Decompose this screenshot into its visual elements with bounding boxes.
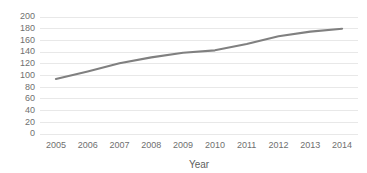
y-axis-tick-label: 60 — [25, 93, 35, 103]
x-axis-tick-label: 2007 — [109, 140, 129, 150]
y-axis-tick-label: 80 — [25, 82, 35, 92]
y-axis-tick-label: 200 — [20, 11, 35, 21]
chart-canvas: 020406080100120140160180200 200520062007… — [0, 0, 367, 173]
y-axis-tick-label: 20 — [25, 117, 35, 127]
x-axis-title: Year — [189, 159, 210, 170]
y-axis-tick-label: 140 — [20, 46, 35, 56]
y-axis-tick-label: 100 — [20, 70, 35, 80]
y-axis-tick-label: 40 — [25, 105, 35, 115]
x-axis-tick-label: 2009 — [173, 140, 193, 150]
line-chart-figure: 020406080100120140160180200 200520062007… — [0, 0, 367, 173]
x-axis-tick-label: 2012 — [268, 140, 288, 150]
x-axis-tick-label: 2008 — [141, 140, 161, 150]
x-axis-tick-label: 2010 — [205, 140, 225, 150]
y-axis-tick-label: 180 — [20, 23, 35, 33]
x-axis-tick-label: 2005 — [46, 140, 66, 150]
x-axis-tick-label: 2011 — [237, 140, 256, 150]
x-axis-tick-label: 2013 — [300, 140, 320, 150]
x-axis-tick-label: 2006 — [78, 140, 98, 150]
y-axis-tick-label: 0 — [30, 128, 35, 138]
x-axis-tick-label: 2014 — [332, 140, 352, 150]
y-axis-tick-label: 120 — [20, 58, 35, 68]
y-axis-tick-label: 160 — [20, 35, 35, 45]
